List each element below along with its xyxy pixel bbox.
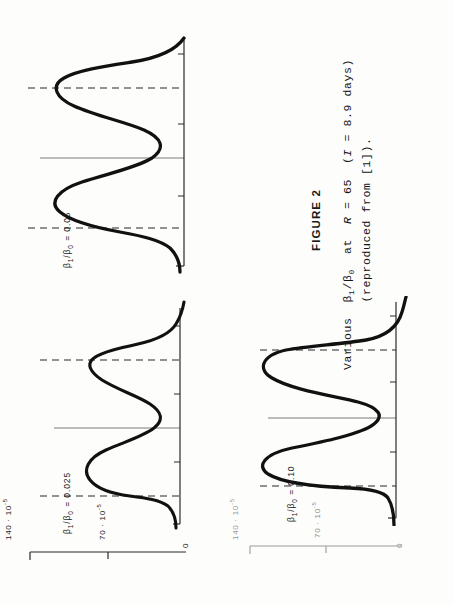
series-label-text: β1/β0 = 0.10 (286, 466, 296, 522)
figure-caption-line1: Various β1/β0 at R = 65 (I = 8.9 days) (339, 70, 358, 370)
ytick-label-70-faint-exp: -5 (311, 501, 317, 508)
ytick-label-140-text: 140 · 10 (4, 505, 13, 540)
ytick-label-70-exp: -5 (96, 503, 102, 510)
value-axis-left-bottom (246, 542, 411, 558)
series-label-text: β1/β0 = 0.025 (62, 472, 72, 534)
caption-prefix: Various (341, 317, 354, 370)
ytick-label-0-faint-text: 0 (395, 543, 404, 548)
caption-beta1: β1 (341, 290, 354, 303)
value-axis-left-top-svg (26, 548, 196, 564)
caption-I-open: ( (341, 156, 354, 164)
scanned-figure-page: β1/β0 = 0.025 β1/β0 = 0.05 (0, 0, 454, 604)
data-curve (55, 38, 184, 272)
ytick-label-140-faint: 140 · 10-5 (229, 498, 240, 540)
figure-caption-title: FIGURE 2 (310, 70, 322, 370)
series-label-beta-0-10: β1/β0 = 0.10 (286, 466, 298, 522)
series-label-text: β1/β0 = 0.05 (62, 212, 72, 268)
series-label-beta-0-05: β1/β0 = 0.05 (62, 212, 74, 268)
data-curve (87, 302, 184, 528)
caption-I-symbol: I (341, 149, 354, 157)
ytick-label-0-text: 0 (181, 543, 190, 548)
figure-stage: β1/β0 = 0.025 β1/β0 = 0.05 (0, 0, 454, 604)
figure-caption: FIGURE 2 Various β1/β0 at R = 65 (I = 8.… (310, 70, 377, 370)
ytick-label-70: 70 · 10-5 (96, 503, 107, 540)
ytick-label-70-text: 70 · 10 (98, 510, 107, 540)
caption-at: at (341, 239, 354, 254)
value-axis-left-bottom-svg (246, 542, 411, 558)
ytick-label-140-faint-exp: -5 (229, 498, 235, 505)
series-label-beta-0-025: β1/β0 = 0.025 (62, 472, 74, 534)
ytick-label-140: 140 · 10-5 (2, 498, 13, 540)
caption-I-value: = 8.9 days) (341, 59, 354, 142)
plot-beta-0-025-svg (26, 300, 194, 532)
value-axis-left-top (26, 548, 196, 564)
plot-beta-0-05: β1/β0 = 0.05 (18, 34, 198, 274)
ytick-label-140-exp: -5 (2, 498, 8, 505)
plot-beta-0-025: β1/β0 = 0.025 (26, 300, 194, 532)
plot-beta-0-05-svg (18, 34, 198, 274)
ytick-label-70-faint-text: 70 · 10 (313, 508, 322, 538)
ytick-label-0-faint: 0 (395, 543, 404, 548)
caption-beta0: β0 (341, 269, 354, 282)
ytick-label-70-faint: 70 · 10-5 (311, 501, 322, 538)
figure-caption-line2: (reproduced from [1]). (358, 70, 377, 370)
caption-R-value: = 65 (341, 179, 354, 209)
caption-slash: / (341, 282, 354, 290)
caption-R-symbol: R (341, 217, 354, 225)
ytick-label-0: 0 (181, 543, 190, 548)
ytick-label-140-faint-text: 140 · 10 (231, 505, 240, 540)
